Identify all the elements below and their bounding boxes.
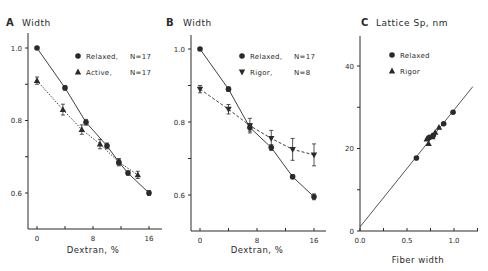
data-point	[290, 174, 296, 180]
panel-a-xlabel: Dextran, %	[67, 245, 120, 255]
legend-label: Rigor	[400, 68, 420, 76]
figure-canvas: A Width Dextran, % 0.60.81.00816Relaxed,…	[0, 0, 488, 271]
series-line	[37, 81, 138, 175]
x-tick-label: 8	[255, 237, 259, 245]
panel-c-title: Lattice Sp, nm	[376, 18, 448, 28]
figure: A Width Dextran, % 0.60.81.00816Relaxed,…	[0, 0, 488, 271]
x-tick-label: 1.0	[448, 237, 459, 245]
legend-n: N=8	[294, 69, 310, 77]
y-tick-label: 0	[350, 228, 354, 236]
panel-b-title: Width	[183, 18, 212, 28]
y-tick-label: 0.8	[174, 119, 185, 127]
y-tick-label: 1.0	[11, 45, 22, 53]
legend-label: Relaxed,	[250, 53, 282, 61]
data-point	[97, 141, 103, 147]
data-point	[289, 147, 295, 153]
data-point	[197, 46, 203, 52]
data-point	[311, 152, 317, 158]
data-point	[450, 109, 456, 115]
legend-marker-icon	[239, 70, 245, 76]
x-tick-label: 0	[198, 237, 202, 245]
data-point	[104, 143, 110, 149]
data-point	[311, 194, 317, 200]
panel-b-letter: B	[166, 17, 174, 28]
data-point	[146, 190, 152, 196]
panel-a-letter: A	[6, 17, 14, 28]
legend-marker-icon	[239, 53, 245, 59]
x-tick-label: 16	[145, 235, 154, 243]
x-tick-label: 16	[310, 237, 319, 245]
data-point	[197, 87, 203, 93]
legend-n: N=17	[294, 53, 315, 61]
data-point	[60, 106, 66, 112]
legend-label: Relaxed	[400, 52, 430, 60]
y-tick-label: 0.6	[11, 190, 23, 198]
data-point	[34, 45, 40, 51]
x-tick-label: 0.0	[354, 237, 365, 245]
data-point	[432, 129, 438, 135]
data-point	[62, 85, 68, 91]
panel-b-xlabel: Dextran, %	[231, 245, 284, 255]
legend-marker-icon	[75, 69, 81, 75]
legend-label: Active,	[86, 69, 112, 77]
panel-a-width-chart: A Width Dextran, % 0.60.81.00816Relaxed,…	[6, 17, 162, 255]
series-line	[200, 89, 314, 155]
data-point	[83, 120, 89, 126]
legend-marker-icon	[75, 53, 81, 59]
data-point	[225, 107, 231, 113]
panel-c-letter: C	[361, 17, 368, 28]
panel-a-title: Width	[22, 18, 51, 28]
legend-n: N=17	[130, 53, 151, 61]
data-point	[226, 86, 232, 92]
legend-n: N=17	[130, 69, 151, 77]
data-point	[125, 170, 131, 176]
data-point	[268, 136, 274, 142]
data-point	[441, 121, 447, 127]
panel-c-xlabel: Fiber width	[392, 255, 444, 265]
y-tick-label: 1.0	[174, 46, 185, 54]
x-tick-label: 8	[91, 235, 95, 243]
y-tick-label: 0.8	[11, 117, 22, 125]
legend-marker-icon	[389, 68, 395, 74]
panel-c-lattice-chart: C Lattice Sp, nm Fiber width 020400.00.5…	[345, 17, 478, 265]
y-tick-label: 20	[345, 145, 354, 153]
panel-b-width-chart: B Width Dextran, % 0.60.81.00816Relaxed,…	[166, 17, 326, 255]
x-tick-label: 0.5	[401, 237, 412, 245]
y-tick-label: 0.6	[174, 192, 186, 200]
legend-label: Rigor,	[250, 69, 272, 77]
legend-label: Relaxed,	[86, 53, 118, 61]
y-tick-label: 40	[345, 63, 354, 71]
x-tick-label: 0	[35, 235, 39, 243]
data-point	[135, 171, 141, 177]
data-point	[34, 77, 40, 83]
data-point	[414, 155, 420, 161]
legend-marker-icon	[389, 52, 395, 58]
data-point	[79, 126, 85, 132]
